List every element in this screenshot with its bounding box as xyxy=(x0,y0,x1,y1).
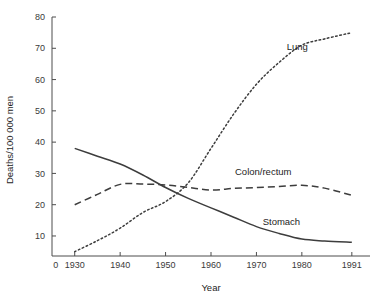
series-line-stomach xyxy=(75,148,352,242)
axis-ticks xyxy=(52,17,352,256)
x-tick-label: 1991 xyxy=(342,260,362,270)
x-tick-label: 0 xyxy=(53,260,58,270)
x-tick-label: 1970 xyxy=(246,260,266,270)
series-line-colon-rectum xyxy=(75,183,352,204)
y-tick-label: 50 xyxy=(35,106,45,116)
axes xyxy=(52,17,370,256)
chart-container: 0193019401950196019701980199110203040506… xyxy=(0,0,388,298)
line-chart-figure: 0193019401950196019701980199110203040506… xyxy=(0,0,388,298)
x-tick-label: 1940 xyxy=(110,260,130,270)
data-series xyxy=(75,33,352,252)
y-tick-label: 10 xyxy=(35,231,45,241)
series-label-stomach: Stomach xyxy=(263,216,301,227)
y-tick-label: 40 xyxy=(35,137,45,147)
series-label-lung: Lung xyxy=(287,41,308,52)
x-tick-label: 1930 xyxy=(65,260,85,270)
x-tick-label: 1960 xyxy=(201,260,221,270)
y-tick-label: 30 xyxy=(35,169,45,179)
y-axis-title: Deaths/100 000 men xyxy=(4,96,15,184)
series-label-colon-rectum: Colon/rectum xyxy=(235,166,292,177)
y-tick-label: 70 xyxy=(35,43,45,53)
x-axis-title: Year xyxy=(201,282,220,293)
x-tick-label: 1980 xyxy=(292,260,312,270)
axis-lines xyxy=(52,17,370,256)
series-line-lung xyxy=(75,33,352,252)
y-tick-label: 60 xyxy=(35,75,45,85)
x-tick-label: 1950 xyxy=(156,260,176,270)
y-tick-label: 20 xyxy=(35,200,45,210)
y-tick-label: 80 xyxy=(35,12,45,22)
axis-tick-labels: 0193019401950196019701980199110203040506… xyxy=(35,12,362,270)
